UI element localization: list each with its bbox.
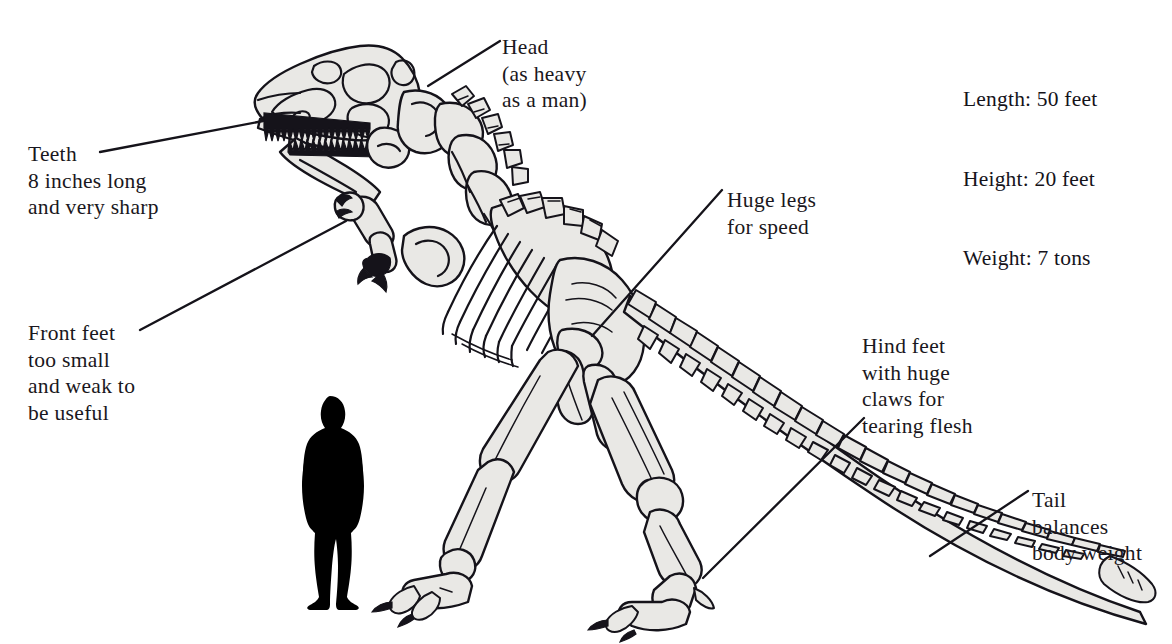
stats-block: Length: 50 feet Height: 20 feet Weight: … [963,33,1097,325]
stat-height: Height: 20 feet [963,166,1097,193]
label-teeth: Teeth 8 inches long and very sharp [28,141,159,221]
head-leader [428,41,500,86]
front-limb [335,193,465,292]
illustration-page: .bone { fill:#e9e8e5; stroke:#15131a; st… [0,0,1172,644]
skull-group [255,46,454,205]
label-front-feet: Front feet too small and weak to be usef… [28,320,135,426]
label-tail: Tail balances body weight [1032,487,1142,567]
human-silhouette-for-scale [302,396,364,610]
label-huge-legs: Huge legs for speed [727,187,816,240]
stat-weight: Weight: 7 tons [963,245,1097,272]
stat-length: Length: 50 feet [963,86,1097,113]
label-hind-feet: Hind feet with huge claws for tearing fl… [862,333,973,439]
label-head: Head (as heavy as a man) [502,34,587,114]
far-hind-leg [372,350,578,627]
front-feet-leader [140,221,346,330]
hind-feet-leader [703,418,864,578]
near-hind-leg [588,376,714,642]
